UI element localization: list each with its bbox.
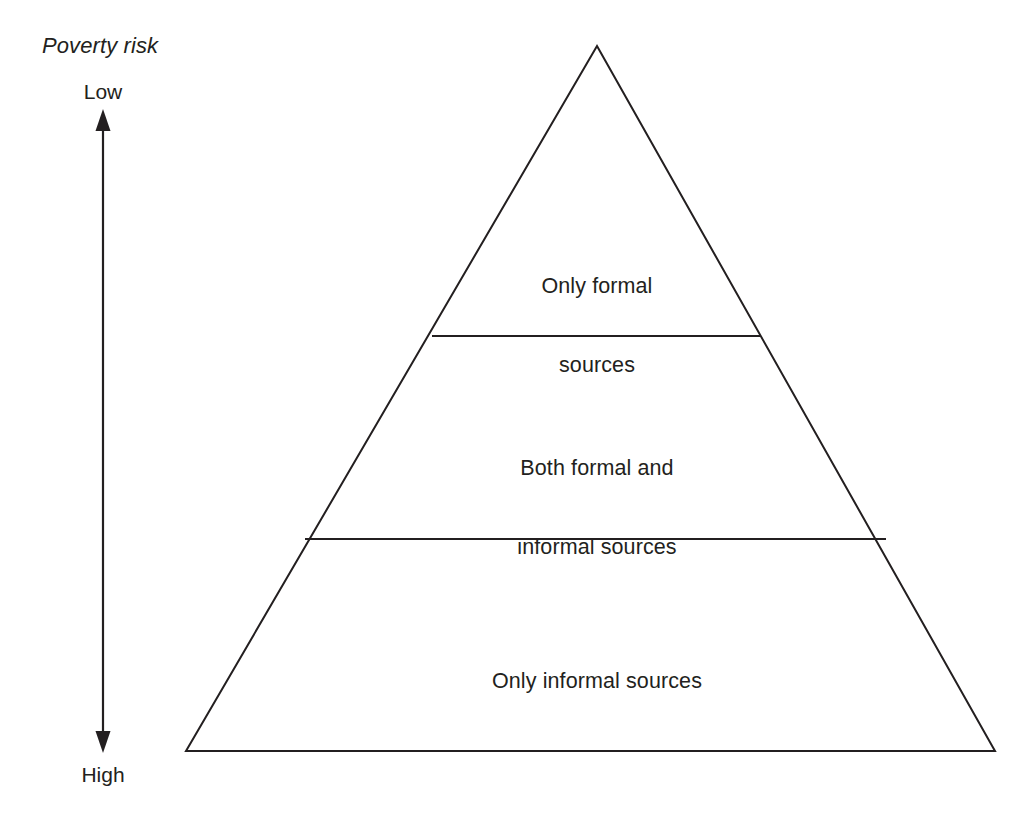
tier-top-line-1: Only formal [397,273,797,299]
axis-label-high: High [53,762,153,788]
axis-arrowhead-up-icon [96,109,111,131]
pyramid-tier-top-label: Only formal sources [397,221,797,431]
pyramid-tier-bottom-label: Only informal sources [397,616,797,747]
axis-title: Poverty risk [42,33,158,60]
tier-bottom-line-1: Only informal sources [397,668,797,694]
pyramid-tier-middle-label: Both formal and informal sources [397,403,797,613]
poverty-risk-pyramid-figure: Poverty risk Low High Only formal source… [0,0,1032,827]
tier-top-line-2: sources [397,352,797,378]
poverty-risk-axis-arrow [96,109,111,753]
tier-middle-line-2: informal sources [397,534,797,560]
axis-arrowhead-down-icon [96,731,111,753]
axis-label-low: Low [53,79,153,105]
tier-middle-line-1: Both formal and [397,455,797,481]
